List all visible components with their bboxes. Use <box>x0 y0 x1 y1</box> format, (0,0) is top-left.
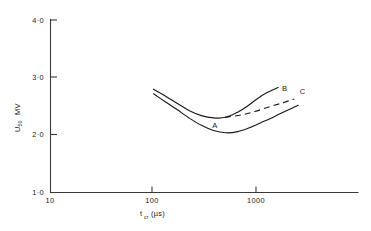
x-axis-title-main: t <box>140 209 142 218</box>
x-axis-title: t cr (µs) <box>140 209 165 220</box>
x-tick-label-1000: 1000 <box>247 196 265 205</box>
x-tick-label-100: 100 <box>145 196 158 205</box>
x-tick-label-10: 10 <box>46 196 55 205</box>
y-tick-label-3: 3·0 <box>32 73 44 82</box>
curve-c <box>225 99 295 117</box>
x-axis-title-sub: cr <box>144 214 149 220</box>
y-axis-title-unit: MV <box>13 103 22 115</box>
y-axis-title: U 50 MV <box>13 103 23 132</box>
curve-label-b: B <box>282 84 287 93</box>
x-axis-title-unit: (µs) <box>151 209 165 218</box>
y-tick-label-4: 4·0 <box>32 16 44 25</box>
y-axis-title-sub: 50 <box>17 120 23 126</box>
curve-b <box>154 87 279 118</box>
chart-figure: 4·0 3·0 2·0 1·0 10 100 1000 t cr (µs) U … <box>0 0 371 231</box>
y-tick-label-1: 1·0 <box>32 188 44 197</box>
curve-a <box>154 94 299 133</box>
curve-label-c: C <box>300 87 306 96</box>
y-tick-label-2: 2·0 <box>32 130 44 139</box>
chart-plot-area: 4·0 3·0 2·0 1·0 10 100 1000 t cr (µs) U … <box>0 0 371 231</box>
curve-label-a: A <box>212 121 218 130</box>
